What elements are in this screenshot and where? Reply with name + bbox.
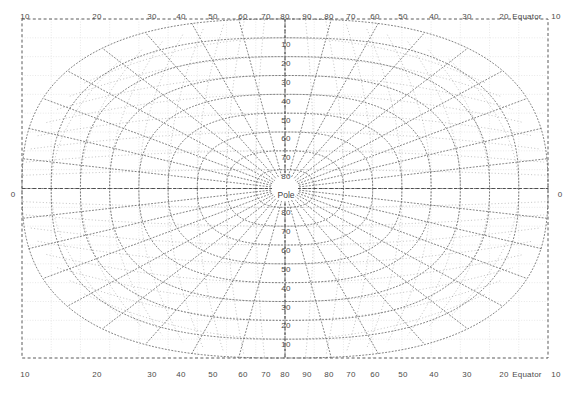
top-axis-tick-label-17: 10 bbox=[551, 12, 560, 21]
bottom-axis-tick-label-9: 80 bbox=[324, 370, 333, 379]
top-axis-tick-label-12: 50 bbox=[398, 12, 407, 21]
central-meridian-label-lower-7: 10 bbox=[281, 340, 290, 349]
bottom-axis-tick-label-8: 90 bbox=[302, 370, 311, 379]
pole-label: Pole bbox=[276, 190, 295, 200]
bottom-axis-tick-label-14: 30 bbox=[462, 370, 471, 379]
bottom-axis-tick-label-1: 20 bbox=[92, 370, 101, 379]
top-axis-tick-label-2: 30 bbox=[147, 12, 156, 21]
top-axis-tick-label-16: Equator bbox=[512, 12, 541, 21]
bottom-axis-tick-label-10: 70 bbox=[346, 370, 355, 379]
bottom-axis-tick-label-6: 70 bbox=[261, 370, 270, 379]
bottom-axis-tick-label-5: 60 bbox=[238, 370, 247, 379]
left-axis-tick-label-0: 0 bbox=[11, 190, 16, 199]
top-axis-tick-label-13: 40 bbox=[429, 12, 438, 21]
top-axis-tick-label-5: 60 bbox=[238, 12, 247, 21]
bottom-axis-tick-label-7: 80 bbox=[280, 370, 289, 379]
central-meridian-label-upper-2: 30 bbox=[281, 78, 290, 87]
top-axis-tick-label-8: 90 bbox=[302, 12, 311, 21]
bottom-axis-tick-label-15: 20 bbox=[499, 370, 508, 379]
right-axis-tick-label-0: 0 bbox=[558, 190, 563, 199]
central-meridian-label-lower-2: 60 bbox=[281, 246, 290, 255]
top-axis-tick-label-10: 70 bbox=[346, 12, 355, 21]
bottom-axis-tick-label-11: 60 bbox=[370, 370, 379, 379]
bottom-axis-tick-label-2: 30 bbox=[147, 370, 156, 379]
central-meridian-label-lower-0: 80 bbox=[281, 208, 290, 217]
central-meridian-label-upper-6: 70 bbox=[281, 153, 290, 162]
central-meridian-label-upper-0: 10 bbox=[281, 40, 290, 49]
top-axis-tick-label-14: 30 bbox=[462, 12, 471, 21]
bottom-axis-tick-label-17: 10 bbox=[551, 370, 560, 379]
top-axis-tick-label-11: 60 bbox=[370, 12, 379, 21]
top-axis-tick-label-6: 70 bbox=[261, 12, 270, 21]
central-meridian-label-lower-4: 40 bbox=[281, 284, 290, 293]
top-axis-tick-label-0: 10 bbox=[20, 12, 29, 21]
bottom-axis-tick-label-13: 40 bbox=[429, 370, 438, 379]
central-meridian-label-lower-5: 30 bbox=[281, 303, 290, 312]
top-axis-tick-label-15: 20 bbox=[499, 12, 508, 21]
central-meridian-label-upper-5: 60 bbox=[281, 134, 290, 143]
top-axis-tick-label-7: 80 bbox=[280, 12, 289, 21]
central-meridian-label-lower-3: 50 bbox=[281, 265, 290, 274]
central-meridian-label-upper-3: 40 bbox=[281, 97, 290, 106]
central-meridian-label-upper-1: 20 bbox=[281, 59, 290, 68]
central-meridian-label-upper-7: 80 bbox=[281, 172, 290, 181]
central-meridian-label-lower-1: 70 bbox=[281, 227, 290, 236]
bottom-axis-tick-label-4: 50 bbox=[208, 370, 217, 379]
top-axis-tick-label-1: 20 bbox=[92, 12, 101, 21]
top-axis-tick-label-3: 40 bbox=[176, 12, 185, 21]
bottom-axis-tick-label-0: 10 bbox=[20, 370, 29, 379]
bottom-axis-tick-label-16: Equator bbox=[512, 370, 541, 379]
top-axis-tick-label-4: 50 bbox=[208, 12, 217, 21]
central-meridian-label-lower-6: 20 bbox=[281, 321, 290, 330]
central-meridian-label-upper-4: 50 bbox=[281, 116, 290, 125]
top-axis-tick-label-9: 80 bbox=[324, 12, 333, 21]
map-projection-figure: 10203040506070809080706050403020Equator1… bbox=[0, 0, 571, 394]
bottom-axis-tick-label-12: 50 bbox=[398, 370, 407, 379]
bottom-axis-tick-label-3: 40 bbox=[176, 370, 185, 379]
